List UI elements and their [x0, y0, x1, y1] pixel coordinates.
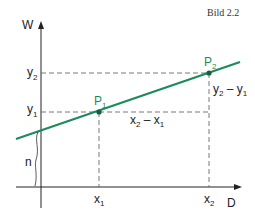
point-p1-label: P1 — [94, 94, 107, 110]
intercept-label: n — [25, 155, 32, 169]
y-axis-arrow-icon — [38, 21, 44, 29]
linear-function-diagram: Bild 2.2 W D P1 P2 y2 y1 x1 x2 x2 – x1 y… — [0, 0, 255, 219]
y1-label: y1 — [27, 102, 38, 119]
x2-label: x2 — [204, 192, 215, 208]
delta-x-label: x2 – x1 — [130, 113, 165, 129]
y2-label: y2 — [27, 65, 38, 82]
x-axis-label: D — [227, 196, 236, 210]
point-p2-label: P2 — [204, 55, 217, 71]
figure-caption: Bild 2.2 — [207, 7, 239, 18]
x1-label: x1 — [94, 192, 105, 208]
helper-lines — [41, 73, 209, 187]
x-axis-arrow-icon — [234, 184, 242, 190]
function-line — [16, 62, 240, 139]
point-p2 — [206, 70, 211, 75]
delta-y-label: y2 – y1 — [213, 82, 248, 98]
intercept-brace-icon — [35, 132, 38, 186]
y-axis-label: W — [22, 18, 34, 32]
point-p1 — [96, 109, 101, 114]
